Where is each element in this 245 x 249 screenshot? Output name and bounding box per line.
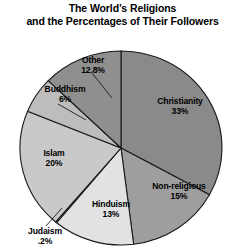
slice-name-islam: Islam — [22, 148, 86, 158]
slice-percent-buddhism: 6% — [28, 94, 102, 104]
slice-percent-nonreligious: 15% — [133, 191, 225, 201]
pie-chart-figure: The World’s Religions and the Percentage… — [0, 0, 245, 249]
slice-percent-islam: 20% — [22, 158, 86, 168]
slice-name-buddhism: Buddhism — [28, 84, 102, 94]
slice-label-christianity: Christianity 33% — [140, 96, 220, 116]
slice-label-other: Other 12.8% — [62, 55, 124, 75]
slice-percent-hinduism: 13% — [76, 209, 146, 219]
slice-percent-christianity: 33% — [140, 106, 220, 116]
slice-name-christianity: Christianity — [140, 96, 220, 106]
slice-label-islam: Islam 20% — [22, 148, 86, 168]
slice-label-hinduism: Hinduism 13% — [76, 199, 146, 219]
slice-name-other: Other — [62, 55, 124, 65]
slice-label-nonreligious: Non-religious 15% — [133, 181, 225, 201]
slice-label-buddhism: Buddhism 6% — [28, 84, 102, 104]
slice-name-judaism: Judaism — [14, 226, 76, 236]
slice-label-judaism: Judaism .2% — [14, 226, 76, 246]
slice-percent-judaism: .2% — [14, 236, 76, 246]
slice-name-nonreligious: Non-religious — [133, 181, 225, 191]
slice-percent-other: 12.8% — [62, 65, 124, 75]
slice-name-hinduism: Hinduism — [76, 199, 146, 209]
